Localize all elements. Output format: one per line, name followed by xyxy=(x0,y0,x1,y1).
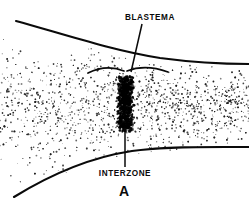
anatomical-figure: BLASTEMA INTERZONE A xyxy=(0,0,249,201)
upper-bone-outline xyxy=(16,21,249,64)
blastema-arc-left xyxy=(88,68,124,73)
figure-letter: A xyxy=(119,183,129,199)
blastema-leader-line xyxy=(131,24,142,72)
figure-canvas: BLASTEMA INTERZONE A xyxy=(0,0,249,201)
interzone-dense-column xyxy=(116,75,135,133)
interzone-label: INTERZONE xyxy=(99,169,151,178)
blastema-arc-right xyxy=(127,68,168,72)
blastema-label: BLASTEMA xyxy=(125,13,175,22)
